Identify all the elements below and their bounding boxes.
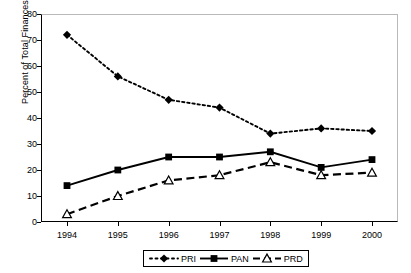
y-tick-label: 30 xyxy=(11,139,37,149)
data-point-marker xyxy=(216,154,223,161)
x-tick-mark xyxy=(67,222,68,226)
data-point-marker xyxy=(64,182,71,189)
legend-entry-pan[interactable]: PAN xyxy=(199,251,249,266)
y-tick-label: 50 xyxy=(11,87,37,97)
y-tick-label: 60 xyxy=(11,61,37,71)
plot-area xyxy=(41,14,398,222)
legend-entry-prd[interactable]: PRD xyxy=(252,251,303,266)
x-axis-ticks: 1994199519961997199819992000 xyxy=(41,222,399,242)
y-tick-label: 70 xyxy=(11,35,37,45)
data-point-marker xyxy=(160,254,168,262)
legend-swatch-squarefilled-icon xyxy=(199,252,229,265)
data-point-marker xyxy=(211,255,218,262)
y-tick-label: 10 xyxy=(11,191,37,201)
x-tick-mark xyxy=(169,222,170,226)
series-layer xyxy=(41,14,398,222)
legend-label: PRD xyxy=(284,254,303,264)
data-point-marker xyxy=(63,31,71,39)
x-tick-mark xyxy=(372,222,373,226)
legend-label: PRI xyxy=(181,254,196,264)
series-pan xyxy=(64,148,376,189)
y-tick-label: 40 xyxy=(11,113,37,123)
legend-entry-pri[interactable]: PRI xyxy=(149,251,196,266)
y-tick-label: 80 xyxy=(11,9,37,19)
x-tick-mark xyxy=(321,222,322,226)
data-point-marker xyxy=(368,168,377,176)
legend-swatch-triangleopen-icon xyxy=(252,252,282,265)
data-point-marker xyxy=(267,148,274,155)
legend-label: PAN xyxy=(231,254,249,264)
data-point-marker xyxy=(368,127,376,135)
x-tick-label: 2000 xyxy=(350,230,394,240)
x-tick-mark xyxy=(270,222,271,226)
data-point-marker xyxy=(369,156,376,163)
legend-swatch-diamondfilled-icon xyxy=(149,252,179,265)
x-tick-label: 1996 xyxy=(147,230,191,240)
x-tick-label: 1997 xyxy=(198,230,242,240)
y-axis-ticks: 01020304050607080 xyxy=(9,14,37,222)
data-point-marker xyxy=(266,130,274,138)
data-point-marker xyxy=(317,124,325,132)
series-pri xyxy=(63,31,376,138)
chart-legend: PRIPANPRD xyxy=(143,250,309,267)
data-point-marker xyxy=(165,96,173,104)
x-tick-label: 1995 xyxy=(96,230,140,240)
y-tick-label: 0 xyxy=(11,217,37,227)
y-tick-label: 20 xyxy=(11,165,37,175)
series-line xyxy=(67,35,372,134)
data-point-marker xyxy=(165,154,172,161)
x-tick-mark xyxy=(118,222,119,226)
x-tick-label: 1999 xyxy=(299,230,343,240)
data-point-marker xyxy=(215,104,223,112)
x-tick-mark xyxy=(220,222,221,226)
data-point-marker xyxy=(114,167,121,174)
x-tick-label: 1994 xyxy=(45,230,89,240)
data-point-marker xyxy=(266,158,275,166)
chart-figure: Percent of Total Finances 01020304050607… xyxy=(0,0,411,273)
x-tick-label: 1998 xyxy=(248,230,292,240)
data-point-marker xyxy=(164,176,173,184)
